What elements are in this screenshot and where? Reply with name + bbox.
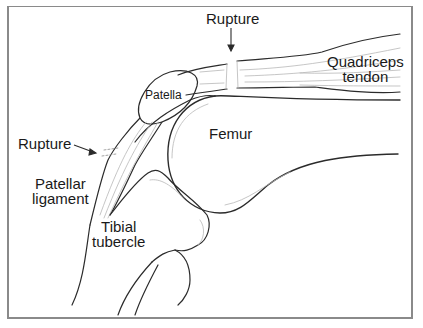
label-tibial-line2: tubercle [92, 234, 145, 249]
label-patellar-line1: Patellar [32, 176, 89, 191]
label-patellar-ligament: Patellar ligament [32, 176, 89, 206]
patellar-ligament [72, 118, 162, 305]
label-quadriceps-tendon: Quadriceps tendon [327, 54, 404, 84]
rupture-arrow-top [228, 28, 234, 51]
label-rupture-quadriceps: Rupture [206, 11, 259, 26]
label-patella: Patella [145, 89, 182, 101]
label-tibial-tubercle: Tibial tubercle [92, 219, 145, 249]
label-femur: Femur [209, 126, 252, 141]
rupture-arrow-left [74, 145, 96, 155]
label-rupture-patellar: Rupture [18, 136, 71, 151]
label-quadriceps-line1: Quadriceps [327, 54, 404, 69]
label-quadriceps-line2: tendon [327, 69, 404, 84]
knee-anatomy-illustration [0, 0, 423, 328]
label-patellar-line2: ligament [32, 191, 89, 206]
femur-bone [168, 96, 400, 213]
label-tibial-line1: Tibial [92, 219, 145, 234]
